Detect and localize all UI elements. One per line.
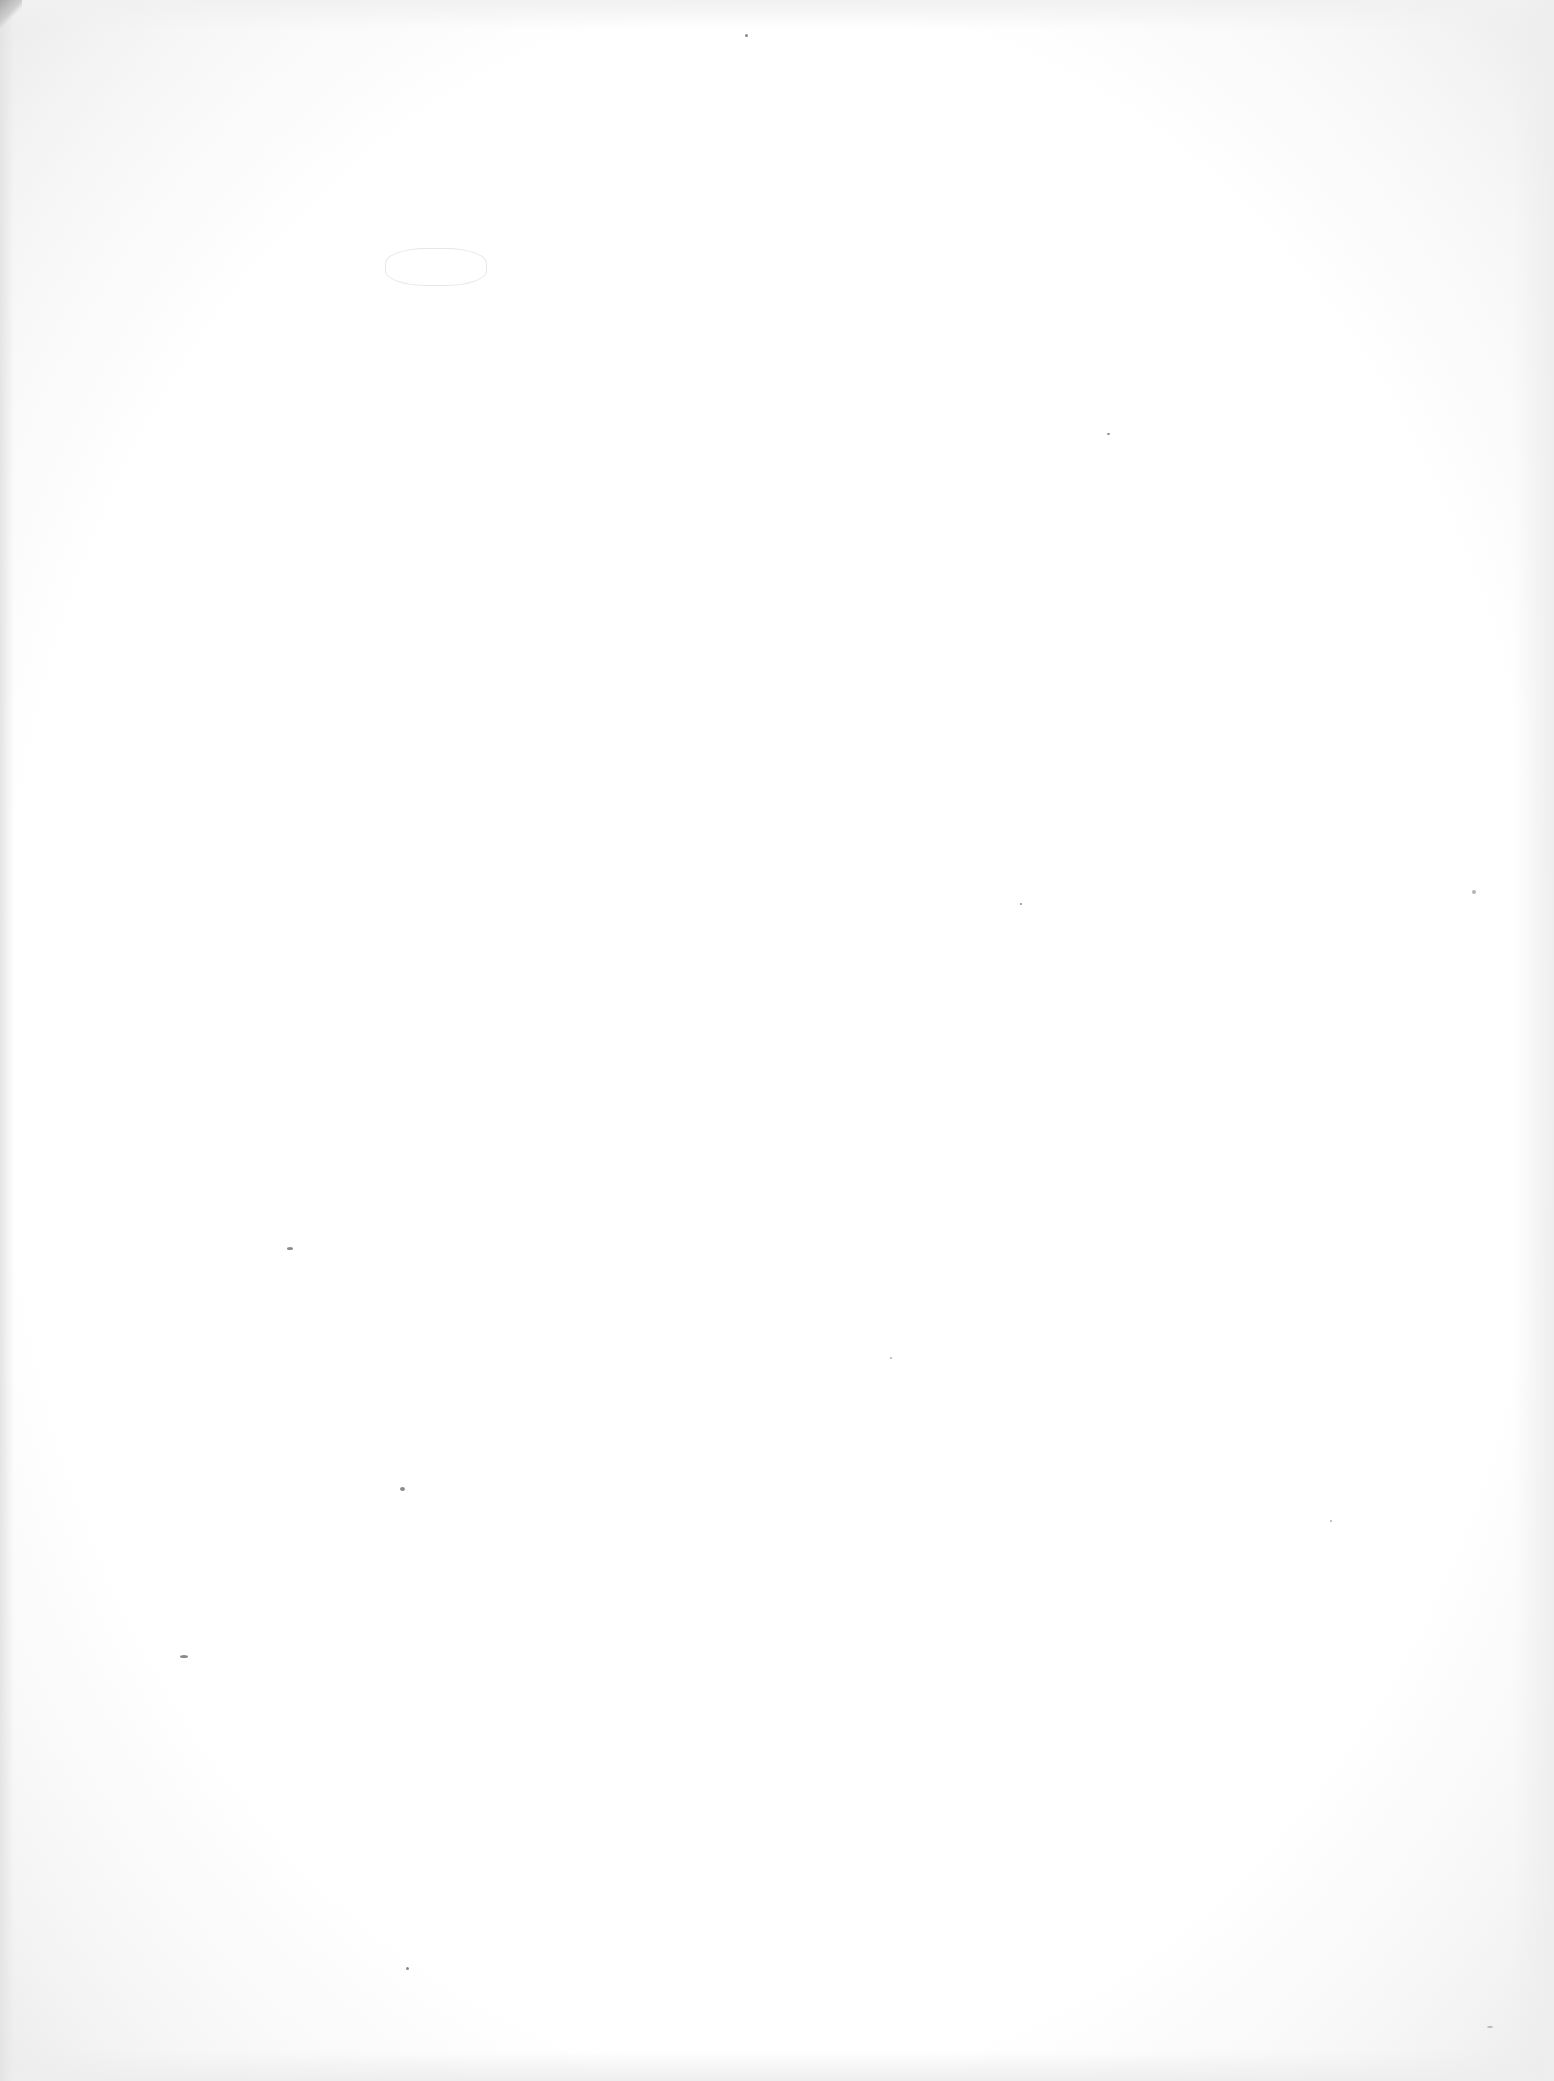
scan-edge-shadow-right: [1514, 0, 1554, 2081]
paper-speck: [406, 1967, 409, 1970]
faint-smudge-mark: [385, 248, 487, 286]
blank-scanned-page: [0, 0, 1554, 2081]
scan-edge-shadow-top: [0, 0, 1554, 30]
paper-speck: [400, 1487, 405, 1491]
paper-speck: [1107, 433, 1110, 435]
page-corner-curl: [0, 0, 22, 28]
paper-speck: [287, 1247, 293, 1250]
paper-speck: [745, 34, 748, 37]
paper-speck: [1330, 1520, 1332, 1522]
paper-speck: [1020, 903, 1022, 905]
paper-speck: [1472, 890, 1476, 894]
paper-speck: [890, 1357, 892, 1359]
scan-edge-shadow-bottom: [0, 2051, 1554, 2081]
paper-speck: [1487, 2026, 1493, 2028]
paper-speck: [180, 1655, 188, 1658]
scan-edge-shadow-left: [0, 0, 14, 2081]
